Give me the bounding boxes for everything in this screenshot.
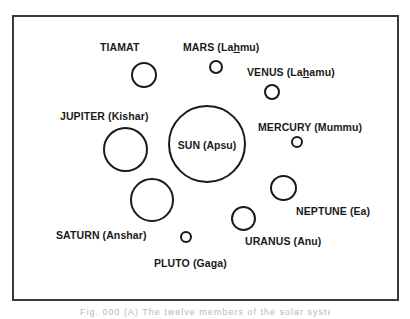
pluto-circle: [180, 231, 192, 243]
venus-label: VENUS (Lahamu): [247, 66, 335, 78]
neptune-circle: [270, 175, 297, 201]
pluto-label: PLUTO (Gaga): [154, 257, 227, 269]
uranus-label: URANUS (Anu): [245, 235, 321, 247]
venus-label-post: amu): [309, 66, 335, 78]
mercury-label: MERCURY (Mummu): [258, 121, 362, 133]
figure-caption: Fig. 000 (A) The twelve members of the s…: [80, 307, 330, 319]
sun-label: SUN (Apsu): [178, 139, 236, 151]
mars-label-pre: MARS (La: [183, 41, 233, 53]
venus-circle: [264, 84, 280, 100]
mercury-circle: [291, 136, 303, 148]
neptune-label: NEPTUNE (Ea): [296, 205, 370, 217]
tiamat-circle: [131, 62, 157, 88]
tiamat-label: TIAMAT: [100, 41, 139, 53]
venus-label-pre: VENUS (La: [247, 66, 303, 78]
mars-circle: [209, 60, 223, 74]
jupiter-circle: [103, 127, 148, 172]
mars-label: MARS (Lahmu): [183, 41, 259, 53]
jupiter-label: JUPITER (Kishar): [60, 110, 149, 122]
mars-label-post: mu): [240, 41, 260, 53]
saturn-label: SATURN (Anshar): [56, 229, 147, 241]
saturn-circle: [130, 178, 174, 222]
uranus-circle: [231, 206, 256, 231]
